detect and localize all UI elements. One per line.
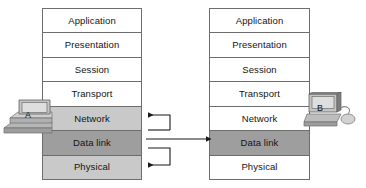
stack-a-layer-application: Application	[43, 9, 141, 33]
computer-b-label: B	[317, 104, 323, 113]
stack-b-layer-application: Application	[210, 9, 309, 33]
stack-b-layer-network: Network	[210, 107, 309, 131]
stack-a-layer-presentation: Presentation	[43, 33, 141, 57]
stack-a-layer-data-link: Data link	[43, 131, 141, 155]
stack-a-layer-physical: Physical	[43, 156, 141, 179]
computer-a-label: A	[25, 111, 31, 120]
stack-a-layer-transport: Transport	[43, 82, 141, 106]
stack-b-layer-presentation: Presentation	[210, 33, 309, 57]
protocol-stack-a: Application Presentation Session Transpo…	[42, 8, 142, 180]
osi-layer-diagram: Application Presentation Session Transpo…	[0, 0, 366, 188]
physical-feedback-arrow	[148, 148, 170, 165]
protocol-stack-b: Application Presentation Session Transpo…	[209, 8, 310, 180]
network-feedback-arrow	[148, 115, 170, 130]
stack-a-layer-session: Session	[43, 58, 141, 82]
stack-b-layer-physical: Physical	[210, 156, 309, 179]
stack-b-layer-session: Session	[210, 58, 309, 82]
stack-a-layer-network: Network	[43, 107, 141, 131]
stack-b-layer-data-link: Data link	[210, 131, 309, 155]
computer-icon-b	[303, 92, 361, 140]
stack-b-layer-transport: Transport	[210, 82, 309, 106]
